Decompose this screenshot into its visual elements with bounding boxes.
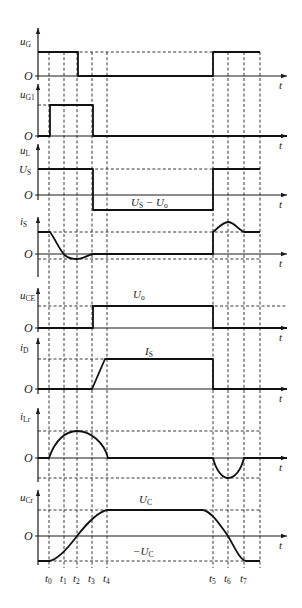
time-marker-label-t0: t0 <box>45 572 52 586</box>
y-axis-label-iD: iD <box>20 341 29 355</box>
y-axis-arrow-icon <box>36 288 40 294</box>
x-axis-arrow-icon <box>281 534 287 538</box>
y-axis-arrow-icon <box>36 144 40 150</box>
y-axis-arrow-icon <box>36 408 40 414</box>
switching-waveform-diagram: uGOtuG1OtuLOtUSUS − UoiSOtuCEOtUoiDOtISi… <box>0 0 302 608</box>
panel-uCr: uCrOtUC−UC <box>20 490 287 565</box>
waveform-annotation: IS <box>144 345 153 359</box>
time-axis-label: t <box>279 331 283 343</box>
level-label: US <box>19 163 31 177</box>
y-axis-label-iS: iS <box>20 215 27 229</box>
origin-label: O <box>24 382 33 396</box>
y-axis-label-iLr: iLr <box>20 410 31 424</box>
origin-label: O <box>24 321 33 335</box>
waveform-annotation: UC <box>139 493 152 507</box>
panel-uCE: uCEOtUo <box>20 288 287 343</box>
x-axis-arrow-icon <box>281 193 287 197</box>
waveform-annotation: −UC <box>133 545 153 559</box>
waveform-iLr <box>38 431 287 478</box>
time-axis-label: t <box>279 79 283 91</box>
y-axis-label-uG1: uG1 <box>20 88 35 102</box>
y-axis-label-uCr: uCr <box>20 491 34 505</box>
time-axis-label: t <box>279 539 283 551</box>
y-axis-label-uL: uL <box>20 144 31 158</box>
time-marker-label-t7: t7 <box>240 572 247 586</box>
origin-label: O <box>24 69 33 83</box>
waveform-annotation: US − Uo <box>131 196 168 210</box>
waveform-uG1 <box>38 105 287 136</box>
time-marker-labels: t0t1t2t3t4t5t6t7 <box>45 572 247 586</box>
origin-label: O <box>24 247 33 261</box>
x-axis-arrow-icon <box>281 74 287 78</box>
waveform-annotation: Uo <box>133 288 145 302</box>
waveform-uG <box>38 52 260 76</box>
waveform-panels: uGOtuG1OtuLOtUSUS − UoiSOtuCEOtUoiDOtISi… <box>19 28 287 565</box>
origin-label: O <box>24 129 33 143</box>
panel-iD: iDOtIS <box>20 338 287 404</box>
origin-label: O <box>24 451 33 465</box>
y-axis-arrow-icon <box>36 84 40 90</box>
time-marker-label-t1: t1 <box>60 572 67 586</box>
panel-iS: iSOt <box>20 215 287 277</box>
y-axis-arrow-icon <box>36 338 40 344</box>
time-marker-label-t6: t6 <box>224 572 231 586</box>
origin-label: O <box>24 188 33 202</box>
time-marker-dashed-lines <box>49 52 260 568</box>
panel-iLr: iLrOt <box>20 408 287 482</box>
time-axis-label: t <box>279 257 283 269</box>
time-marker-label-t4: t4 <box>103 572 110 586</box>
y-axis-label-uCE: uCE <box>20 289 36 303</box>
panel-uG: uGOt <box>20 28 287 91</box>
waveform-iD <box>38 359 287 389</box>
x-axis-arrow-icon <box>281 252 287 256</box>
time-marker-label-t5: t5 <box>209 572 216 586</box>
time-axis-label: t <box>279 392 283 404</box>
time-axis-label: t <box>279 461 283 473</box>
y-axis-arrow-icon <box>36 28 40 34</box>
time-marker-label-t3: t3 <box>88 572 95 586</box>
waveform-uCE <box>38 306 287 328</box>
time-axis-label: t <box>279 198 283 210</box>
origin-label: O <box>24 529 33 543</box>
y-axis-label-uG: uG <box>20 35 32 49</box>
y-axis-arrow-icon <box>36 217 40 223</box>
panel-uL: uLOtUSUS − Uo <box>19 144 287 210</box>
y-axis-arrow-icon <box>36 490 40 496</box>
time-marker-label-t2: t2 <box>73 572 80 586</box>
panel-uG1: uG1Ot <box>20 84 287 151</box>
time-axis-label: t <box>279 139 283 151</box>
